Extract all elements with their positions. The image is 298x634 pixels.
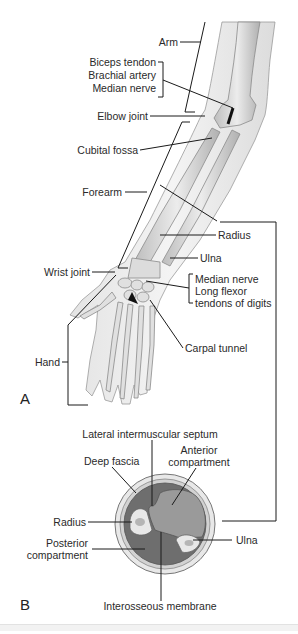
label-brachial-artery: Brachial artery — [70, 69, 156, 81]
label-tendons-of-digits: tendons of digits — [195, 297, 271, 309]
label-lateral-intermuscular-septum: Lateral intermuscular septum — [70, 428, 230, 440]
label-cubital-fossa: Cubital fossa — [50, 144, 138, 156]
label-radius: Radius — [218, 229, 251, 241]
panel-a-letter: A — [20, 390, 30, 407]
label-forearm: Forearm — [60, 186, 122, 198]
label-anterior: Anterior — [168, 444, 230, 456]
label-long-flexor: Long flexor — [195, 285, 247, 297]
label-carpal-tunnel: Carpal tunnel — [185, 342, 247, 354]
label-posterior: Posterior — [18, 537, 88, 549]
label-median-nerve-lower: Median nerve — [195, 273, 259, 285]
label-interosseous-membrane: Interosseous membrane — [90, 600, 230, 612]
label-elbow-joint: Elbow joint — [60, 110, 148, 122]
label-wrist-joint: Wrist joint — [20, 266, 90, 278]
label-hand: Hand — [20, 356, 60, 368]
label-ulna: Ulna — [200, 252, 222, 264]
label-anterior-compartment: compartment — [164, 456, 234, 468]
bottom-divider — [0, 624, 298, 631]
label-ulna-b: Ulna — [236, 534, 258, 546]
label-posterior-compartment: compartment — [18, 549, 88, 561]
label-median-nerve-upper: Median nerve — [70, 82, 156, 94]
label-deep-fascia: Deep fascia — [84, 455, 139, 467]
label-biceps-tendon: Biceps tendon — [70, 56, 156, 68]
label-radius-b: Radius — [30, 516, 86, 528]
panel-b-letter: B — [20, 596, 30, 613]
forearm-cross-section — [115, 474, 215, 574]
label-arm: Arm — [140, 36, 178, 48]
